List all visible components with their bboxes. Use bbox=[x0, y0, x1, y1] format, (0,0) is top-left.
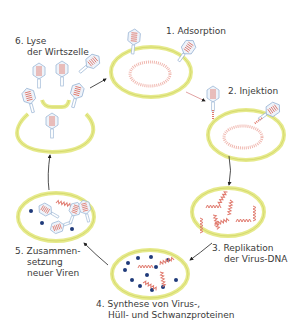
step-5-label: 5. Zusammen- setzung neuer Viren bbox=[15, 246, 81, 279]
step-4-label: 4. Synthese von Virus-, Hüll- und Schwan… bbox=[96, 299, 234, 321]
cell-replication bbox=[192, 188, 264, 236]
step-2-label: 2. Injektion bbox=[228, 86, 278, 97]
step-3-label: 3. Replikation der Virus-DNA bbox=[212, 243, 287, 265]
step-6-label: 6. Lyse der Wirtszelle bbox=[15, 36, 89, 58]
cell-lysis bbox=[17, 52, 103, 152]
step-1-label: 1. Adsorption bbox=[166, 26, 226, 37]
cell-synthesis bbox=[112, 250, 188, 298]
cell-assembly bbox=[18, 193, 94, 241]
cell-injection bbox=[207, 86, 284, 160]
cell-adsorption bbox=[111, 29, 198, 97]
